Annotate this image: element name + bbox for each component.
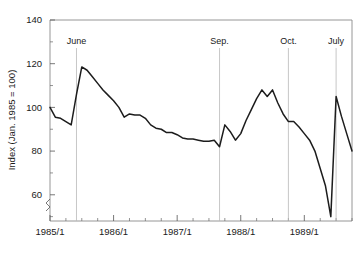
y-tick-label-80: 80	[31, 145, 42, 156]
event-marker-rules	[76, 48, 336, 221]
x-tick-label-1987-1: 1987/1	[163, 226, 192, 237]
index-line-chart: 6080100120140 1985/11986/11987/11988/119…	[0, 0, 364, 255]
y-tick-label-60: 60	[31, 189, 42, 200]
event-label-june: June	[67, 36, 87, 46]
index-series-line	[50, 67, 352, 217]
event-label-oct: Oct.	[280, 36, 297, 46]
x-axis-tick-labels: 1985/11986/11987/11988/11989/1	[35, 226, 318, 237]
event-marker-labels: JuneSep.Oct.July	[67, 36, 345, 46]
y-axis-tick-labels: 6080100120140	[26, 14, 42, 200]
y-tick-label-120: 120	[26, 58, 42, 69]
event-label-july: July	[328, 36, 345, 46]
chart-container: 6080100120140 1985/11986/11987/11988/119…	[0, 0, 364, 255]
y-axis-title: Index (Jan. 1985 = 100)	[6, 70, 17, 171]
x-axis-ticks	[50, 215, 304, 221]
x-tick-label-1985-1: 1985/1	[35, 226, 64, 237]
x-tick-label-1988-1: 1988/1	[226, 226, 255, 237]
y-axis-break-symbol	[46, 199, 50, 211]
y-axis-title-text: Index (Jan. 1985 = 100)	[6, 70, 17, 171]
x-tick-label-1989-1: 1989/1	[290, 226, 319, 237]
plot-frame	[50, 20, 352, 221]
y-tick-label-100: 100	[26, 102, 42, 113]
y-tick-label-140: 140	[26, 14, 42, 25]
x-tick-label-1986-1: 1986/1	[99, 226, 128, 237]
event-label-sep: Sep.	[210, 36, 229, 46]
